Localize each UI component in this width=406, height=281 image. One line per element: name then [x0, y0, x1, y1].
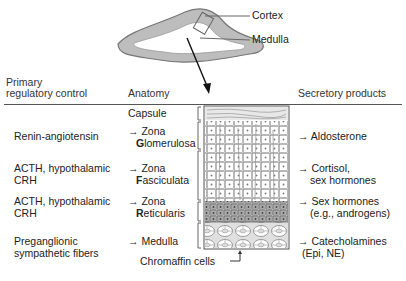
control-line: sympathetic fibers — [14, 248, 99, 260]
row-medulla-control: Preganglionic sympathetic fibers — [14, 236, 99, 259]
row-fasciculata-anatomy: → Zona Fasciculata — [128, 163, 189, 186]
anatomy-rest: asciculata — [142, 174, 189, 186]
row-fasciculata-products: → Cortisol, sex hormones — [298, 163, 376, 186]
product-line: → Cortisol, — [298, 163, 376, 175]
cortex-label: Cortex — [252, 10, 283, 22]
header-anatomy: Anatomy — [128, 88, 169, 99]
zona-glomerulosa-layer — [205, 121, 288, 149]
row-reticularis-control: ACTH, hypothalamic CRH — [14, 196, 110, 219]
row-reticularis-anatomy: → Zona Reticularis — [128, 196, 185, 219]
capsule-label: Capsule — [128, 108, 167, 120]
product-line: (Epi, NE) — [298, 248, 387, 260]
header-divider — [4, 104, 402, 105]
zona-reticularis-layer — [205, 201, 288, 222]
row-glomerulosa-anatomy: → Zona Glomerulosa — [128, 126, 196, 149]
header-regulatory-control: Primary regulatory control — [6, 77, 87, 99]
header-secretory-products: Secretory products — [298, 88, 386, 99]
row-glomerulosa-products: → Aldosterone — [298, 131, 367, 143]
product-line: sex hormones — [298, 175, 376, 187]
anatomy-initial: G — [136, 137, 144, 149]
control-line: CRH — [14, 208, 110, 220]
pointer-arrowhead — [203, 83, 211, 94]
row-medulla-products: → Catecholamines (Epi, NE) — [298, 236, 387, 259]
zone-brackets — [198, 107, 201, 248]
anatomy-rest: eticularis — [144, 207, 185, 219]
header-regulatory-line2: regulatory control — [6, 88, 87, 99]
product-line: → Aldosterone — [298, 131, 367, 143]
medulla-layer — [205, 222, 288, 248]
product-line: (e.g., androgens) — [298, 208, 390, 220]
zona-fasciculata-layer — [205, 149, 288, 201]
product-line: → Sex hormones — [298, 196, 390, 208]
control-line: Preganglionic — [14, 236, 99, 248]
control-line: Renin-angiotensin — [14, 131, 99, 143]
anatomy-initial: R — [136, 207, 144, 219]
product-line: → Catecholamines — [298, 236, 387, 248]
control-line: ACTH, hypothalamic — [14, 163, 110, 175]
control-line: CRH — [14, 175, 110, 187]
control-line: ACTH, hypothalamic — [14, 196, 110, 208]
chromaffin-cells-label: Chromaffin cells — [140, 256, 215, 268]
medulla-label: Medulla — [252, 34, 289, 46]
row-medulla-anatomy: → Medulla — [128, 236, 178, 248]
row-reticularis-products: → Sex hormones (e.g., androgens) — [298, 196, 390, 219]
anatomy-rest: lomerulosa — [144, 137, 195, 149]
anatomy-arrow-text: → Medulla — [128, 236, 178, 248]
row-glomerulosa-control: Renin-angiotensin — [14, 131, 99, 143]
row-fasciculata-control: ACTH, hypothalamic CRH — [14, 163, 110, 186]
histology-panel — [204, 106, 289, 249]
